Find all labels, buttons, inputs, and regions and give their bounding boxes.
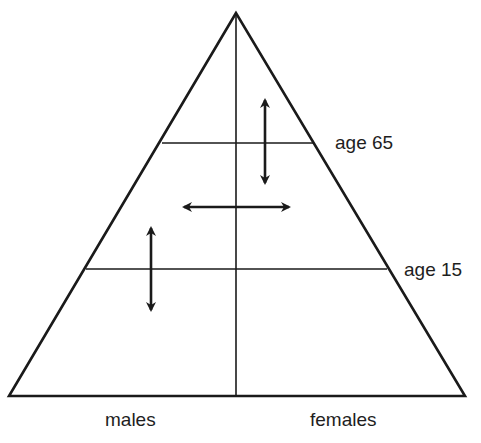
pyramid-outline [9, 13, 465, 396]
age-15-label: age 15 [404, 260, 462, 279]
females-label: females [310, 410, 377, 429]
population-pyramid-diagram [0, 0, 481, 443]
age-65-label: age 65 [335, 133, 393, 152]
males-label: males [105, 410, 156, 429]
